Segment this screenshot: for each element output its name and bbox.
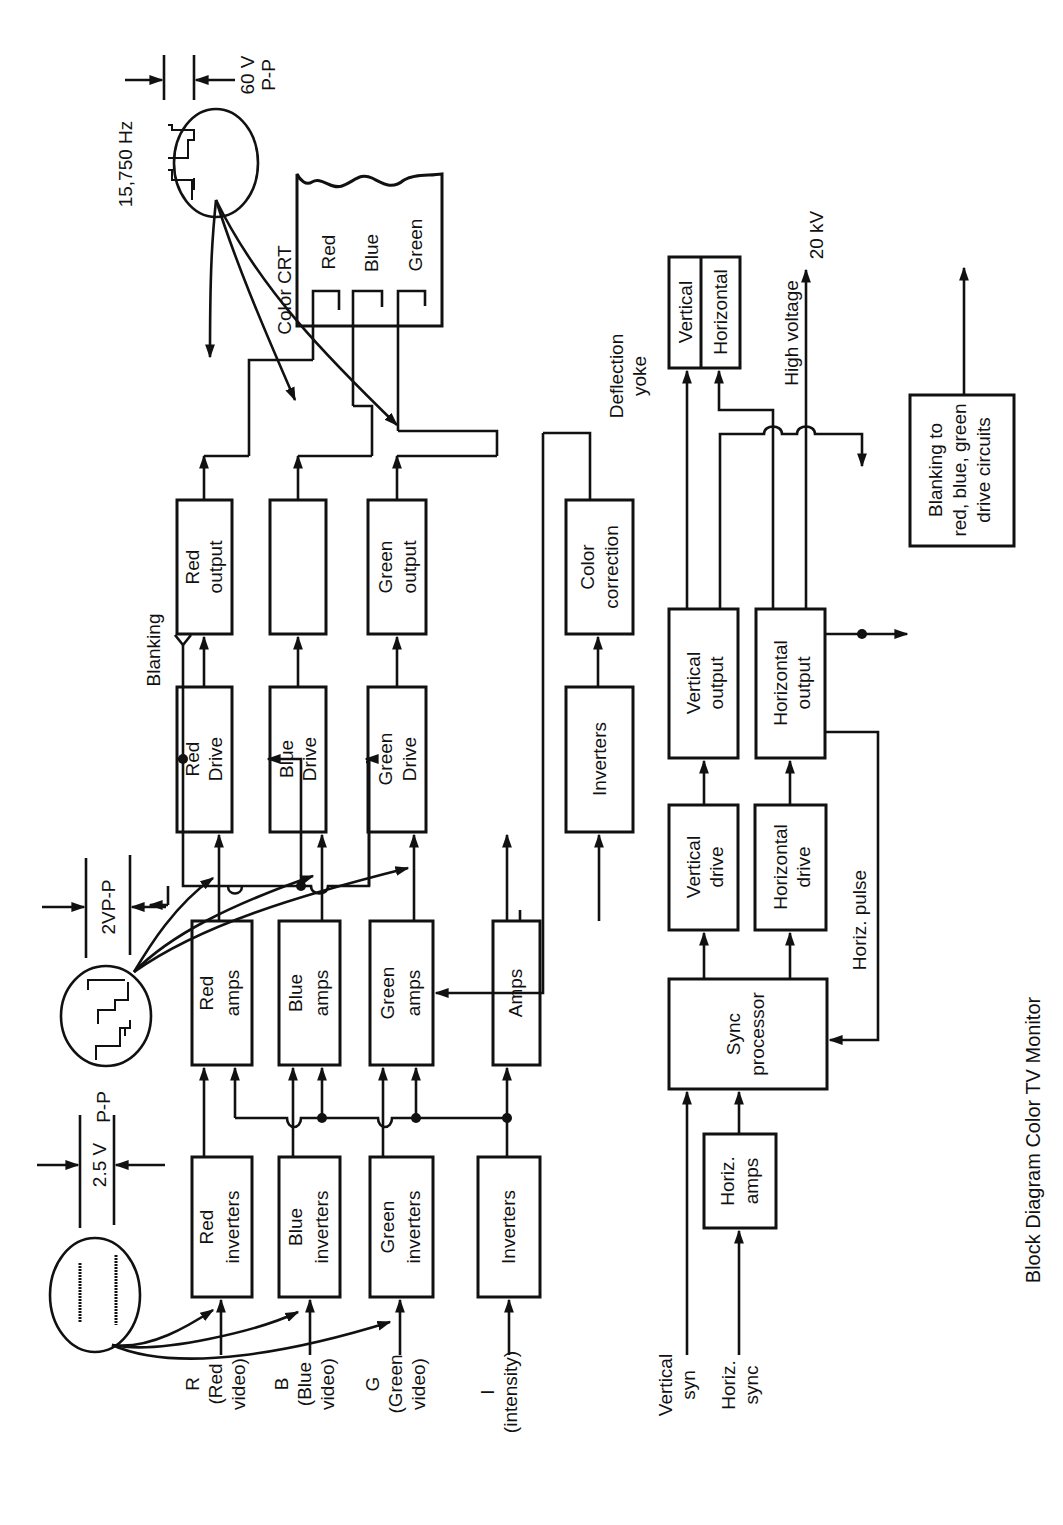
input-label-blue: video) bbox=[317, 1358, 338, 1410]
block-color-correction: Color correction bbox=[566, 500, 633, 634]
input-label-red: (Red bbox=[205, 1363, 226, 1404]
block-sync-processor: Sync processor bbox=[669, 979, 827, 1089]
amplitude-label: P-P bbox=[93, 1091, 114, 1123]
block-label: output bbox=[399, 540, 420, 594]
block-label: Horizontal bbox=[770, 824, 791, 910]
crt-gun-blue: Blue bbox=[361, 234, 382, 272]
block-label: drive circuits bbox=[973, 417, 994, 523]
block-red-output: Red output bbox=[177, 500, 232, 634]
input-label-red: R bbox=[182, 1377, 203, 1391]
block-label: processor bbox=[747, 992, 768, 1076]
block-blanking-circuits: Blanking to red, blue, green drive circu… bbox=[910, 395, 1014, 546]
input-label-red: video) bbox=[228, 1358, 249, 1410]
block-label: Vertical bbox=[675, 281, 696, 343]
block-label: Color bbox=[577, 544, 598, 590]
horiz-pulse-label: Horiz. pulse bbox=[849, 870, 870, 970]
block-label: amps bbox=[311, 970, 332, 1016]
amplitude-label: 2VP-P bbox=[98, 880, 119, 935]
block-label: Blue bbox=[285, 1208, 306, 1246]
block-blue-output bbox=[270, 500, 326, 634]
block-label: Horizontal bbox=[710, 269, 731, 355]
block-vertical-output: Vertical output bbox=[669, 609, 738, 758]
block-green-inverters: Green inverters bbox=[370, 1157, 433, 1297]
amplitude-label: P-P bbox=[258, 59, 279, 91]
input-label-vertical-sync: Vertical bbox=[655, 1354, 676, 1416]
block-green-drive: Green Drive bbox=[368, 687, 426, 832]
block-label: red, blue, green bbox=[949, 403, 970, 536]
block-label: Drive bbox=[399, 737, 420, 781]
input-label-horiz-sync: sync bbox=[741, 1365, 762, 1404]
block-label: output bbox=[793, 656, 814, 710]
block-diagram: Red inverters Blue inverters Green inver… bbox=[0, 0, 1063, 1525]
input-label-intensity: I bbox=[477, 1389, 498, 1394]
input-label-green: G bbox=[362, 1377, 383, 1392]
block-red-amps: Red amps bbox=[192, 921, 252, 1065]
color-crt: Color CRT Red Blue Green bbox=[274, 174, 442, 431]
block-label: inverters bbox=[222, 1191, 243, 1264]
high-voltage-label: High voltage bbox=[781, 280, 802, 386]
block-label: Red bbox=[196, 1210, 217, 1245]
block-label: drive bbox=[793, 846, 814, 887]
block-label: correction bbox=[601, 525, 622, 608]
block-label: Horiz. bbox=[717, 1156, 738, 1206]
block-label: inverters bbox=[403, 1191, 424, 1264]
block-intensity-inverters: Inverters bbox=[478, 1157, 540, 1297]
block-label: inverters bbox=[311, 1191, 332, 1264]
block-red-inverters: Red inverters bbox=[192, 1157, 252, 1297]
input-label-vertical-sync: syn bbox=[678, 1370, 699, 1400]
block-green-amps: Green amps bbox=[370, 921, 433, 1065]
block-label: Sync bbox=[723, 1013, 744, 1055]
block-label: Green bbox=[377, 967, 398, 1020]
block-label: Drive bbox=[205, 737, 226, 781]
deflection-yoke-label: Deflection bbox=[606, 334, 627, 419]
block-label: Vertical bbox=[683, 836, 704, 898]
input-label-blue: (Blue bbox=[294, 1362, 315, 1406]
block-horizontal-output: Horizontal output bbox=[756, 609, 825, 758]
input-label-green: video) bbox=[408, 1358, 429, 1410]
crt-gun-green: Green bbox=[405, 219, 426, 272]
block-mid-inverters: Inverters bbox=[566, 687, 633, 832]
block-label: Blanking to bbox=[925, 423, 946, 517]
block-deflection-yoke: Vertical Horizontal bbox=[669, 257, 740, 368]
crt-gun-red: Red bbox=[318, 235, 339, 270]
amplitude-label: 2.5 V bbox=[89, 1142, 110, 1187]
block-horiz-amps: Horiz. amps bbox=[704, 1134, 776, 1228]
block-label: Vertical bbox=[683, 652, 704, 714]
frequency-label: 15,750 Hz bbox=[115, 121, 136, 208]
input-label-green: (Green bbox=[385, 1354, 406, 1413]
hv-value-label: 20 kV bbox=[806, 210, 827, 259]
block-label: amps bbox=[741, 1158, 762, 1204]
block-label: Inverters bbox=[589, 722, 610, 796]
block-label: Red bbox=[182, 550, 203, 585]
block-label: Green bbox=[375, 541, 396, 594]
diagram-title: Block Diagram Color TV Monitor bbox=[1022, 996, 1044, 1283]
block-label: Green bbox=[377, 1201, 398, 1254]
block-green-output: Green output bbox=[368, 500, 426, 634]
input-label-horiz-sync: Horiz. bbox=[718, 1360, 739, 1410]
block-label: Blue bbox=[285, 974, 306, 1012]
waveform-output: 60 V P-P 15,750 Hz bbox=[115, 55, 397, 425]
input-label-intensity: (intensity) bbox=[500, 1351, 521, 1433]
crt-label: Color CRT bbox=[274, 245, 295, 335]
inverter-to-amp-wires bbox=[204, 1068, 512, 1157]
block-horizontal-drive: Horizontal drive bbox=[755, 805, 826, 930]
block-label: output bbox=[706, 656, 727, 710]
deflection-yoke-label: yoke bbox=[629, 356, 650, 396]
block-blue-inverters: Blue inverters bbox=[279, 1157, 340, 1297]
input-label-blue: B bbox=[271, 1378, 292, 1391]
block-label: Red bbox=[196, 976, 217, 1011]
block-label: amps bbox=[222, 970, 243, 1016]
blanking-label: Blanking bbox=[143, 614, 164, 687]
block-blue-amps: Blue amps bbox=[279, 921, 340, 1065]
amplitude-label: 60 V bbox=[237, 55, 258, 94]
output-to-crt-wires bbox=[204, 360, 497, 500]
block-label: drive bbox=[706, 846, 727, 887]
block-label: amps bbox=[403, 970, 424, 1016]
block-label: Horizontal bbox=[770, 640, 791, 726]
block-label: Green bbox=[375, 733, 396, 786]
block-vertical-drive: Vertical drive bbox=[669, 805, 738, 930]
block-label: Inverters bbox=[498, 1190, 519, 1264]
block-label: output bbox=[205, 540, 226, 594]
